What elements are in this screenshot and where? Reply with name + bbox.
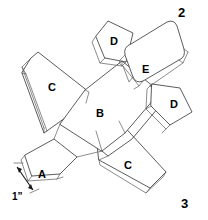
airplane-line-drawing xyxy=(0,0,208,220)
part-label-c-left-wing: C xyxy=(48,82,56,93)
dimension-label: 1” xyxy=(12,192,23,202)
part-label-d-upper-fin: D xyxy=(110,36,118,47)
airplane-parts-figure: C D E B D C A 1” 2 3 xyxy=(0,0,208,220)
part-label-e-stabilizer: E xyxy=(142,64,149,75)
part-label-d-right-fin: D xyxy=(170,99,178,110)
figure-number-bottom-right: 3 xyxy=(181,197,188,210)
right-fin-part-d xyxy=(146,84,192,133)
figure-number-top-right: 2 xyxy=(178,6,185,19)
part-label-a-nose: A xyxy=(38,169,46,180)
part-label-b-fuselage: B xyxy=(96,108,104,119)
part-label-c-right-wing: C xyxy=(124,160,132,171)
